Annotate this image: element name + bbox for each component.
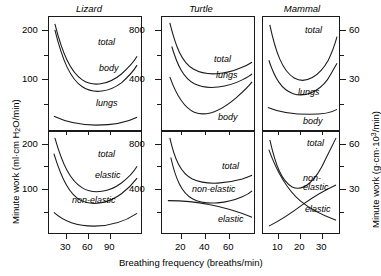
ytick-left-top-200: 200	[22, 24, 38, 35]
xtick-mark-lizard-top-3	[110, 131, 111, 135]
xtick-label-lizard-30: 30	[60, 241, 71, 252]
xtick-mark-turtle-bottom-2	[205, 234, 206, 239]
ytick-mark-right-bottom-minor1	[340, 166, 344, 167]
xtick-mark-lizard-top-1	[66, 131, 67, 135]
panel-lizard-bottom	[48, 131, 142, 234]
xtick-label-mammal-20: 20	[294, 241, 305, 252]
xtick-mark-mammal-bottom-3	[322, 234, 323, 239]
ytick-left-bottom-200: 200	[22, 138, 38, 149]
ytick-mark-left-top-minor1	[44, 55, 48, 56]
ytick-left-top-100: 100	[22, 73, 38, 84]
ytick-right-top-60: 60	[349, 24, 360, 35]
curve-label-turtle-top-body: body	[218, 113, 238, 122]
xtick-label-turtle-60: 60	[223, 241, 234, 252]
ytick-mark-left-top-200	[42, 30, 48, 31]
xtick-mark-mammal-top-1	[278, 131, 279, 135]
ytick-mark-mid-top-800	[155, 30, 161, 31]
ytick-mid-top-400: 400	[129, 73, 145, 84]
xtick-label-mammal-10: 10	[272, 241, 283, 252]
ytick-mark-left-bottom-minor1	[44, 166, 48, 167]
xtick-mark-mammal-bottom-2	[300, 234, 301, 239]
xtick-label-mammal-30: 30	[316, 241, 327, 252]
y-axis-title-right-sup: 3	[370, 132, 377, 136]
curve-label-lizard-bottom-total: total	[98, 150, 115, 159]
panel-title-lizard: Lizard	[48, 3, 130, 14]
x-axis-title: Breathing frequency (breaths/min)	[119, 257, 263, 268]
xtick-label-lizard-90: 90	[104, 241, 115, 252]
y-axis-title-left-pre: Minute work (ml·cm H	[10, 132, 21, 224]
curve-label-lizard-bottom-elastic: elastic	[95, 171, 121, 180]
xtick-mark-turtle-bottom-3	[229, 234, 230, 239]
xtick-label-turtle-40: 40	[199, 241, 210, 252]
ytick-mark-mid-top-400	[155, 79, 161, 80]
curve-label-turtle-bottom-non-elastic: non-elastic	[192, 185, 236, 194]
curve-label-turtle-top-total: total	[214, 55, 231, 64]
curve-label-mammal-top-body: body	[303, 117, 323, 126]
panel-title-turtle: Turtle	[161, 3, 241, 14]
ytick-mark-right-top-30	[340, 79, 346, 80]
curve-label-lizard-bottom-non-elastic: non-elastic	[72, 196, 116, 205]
xtick-mark-turtle-bottom-1	[181, 234, 182, 239]
ytick-mark-mid-top-minor2	[157, 104, 161, 105]
ytick-right-bottom-60: 60	[349, 138, 360, 149]
ytick-mark-right-bottom-60	[340, 144, 346, 145]
ytick-mark-mid-bottom-minor2	[157, 212, 161, 213]
xtick-mark-lizard-bottom-2	[88, 234, 89, 239]
curve-label-mammal-bottom-total: total	[307, 139, 324, 148]
ytick-mark-right-top-60	[340, 30, 346, 31]
ytick-mark-right-bottom-minor2	[340, 212, 344, 213]
curve-label-lizard-top-lungs: lungs	[96, 99, 118, 108]
panel-turtle-top	[161, 16, 255, 131]
panel-lizard-top	[48, 16, 142, 131]
curve-label-mammal-bottom-non-elastic: non- elastic	[303, 174, 329, 192]
curve-label-mammal-top-total: total	[305, 26, 322, 35]
curve-label-mammal-top-lungs: lungs	[298, 88, 320, 97]
ytick-mid-top-800: 800	[129, 24, 145, 35]
panel-title-mammal: Mammal	[262, 3, 342, 14]
ytick-mark-mid-bottom-800	[155, 144, 161, 145]
ytick-mark-mid-top-minor1	[157, 55, 161, 56]
curve-label-lizard-top-body: body	[99, 64, 119, 73]
ytick-mark-mid-bottom-400	[155, 189, 161, 190]
curve-label-lizard-top-total: total	[98, 38, 115, 47]
ytick-mid-bottom-800: 800	[129, 138, 145, 149]
xtick-mark-mammal-top-3	[322, 131, 323, 135]
ytick-mark-right-bottom-30	[340, 189, 346, 190]
xtick-label-lizard-60: 60	[82, 241, 93, 252]
xtick-label-turtle-20: 20	[175, 241, 186, 252]
ytick-mark-right-top-minor2	[340, 104, 344, 105]
ytick-right-top-30: 30	[349, 73, 360, 84]
ytick-mark-right-top-minor1	[340, 55, 344, 56]
curve-label-turtle-top-lungs: lungs	[216, 71, 238, 80]
y-axis-title-left-post: O/min)	[10, 99, 21, 128]
ytick-mid-bottom-400: 400	[129, 183, 145, 194]
curve-label-turtle-bottom-total: total	[222, 162, 239, 171]
y-axis-title-left: Minute work (ml·cm H2O/min)	[10, 99, 21, 224]
ytick-mark-left-top-100	[42, 79, 48, 80]
ytick-right-bottom-30: 30	[349, 183, 360, 194]
y-axis-title-right-post: /min)	[370, 111, 381, 132]
xtick-mark-turtle-top-1	[181, 131, 182, 135]
y-axis-title-right-pre: Minute work (g·cm·10	[370, 136, 381, 228]
xtick-mark-lizard-bottom-1	[66, 234, 67, 239]
xtick-mark-mammal-bottom-1	[278, 234, 279, 239]
xtick-mark-lizard-top-2	[88, 131, 89, 135]
y-axis-title-right: Minute work (g·cm·103/min)	[370, 111, 381, 228]
curve-label-turtle-bottom-elastic: elastic	[218, 215, 244, 224]
ytick-mark-mid-bottom-minor1	[157, 166, 161, 167]
curve-label-mammal-bottom-non-elastic-line2: elastic	[303, 183, 329, 192]
ytick-left-bottom-100: 100	[22, 183, 38, 194]
xtick-mark-lizard-bottom-3	[110, 234, 111, 239]
curve-label-mammal-bottom-elastic: elastic	[305, 205, 331, 214]
panel-mammal-top	[262, 16, 340, 131]
ytick-mark-left-bottom-100	[42, 189, 48, 190]
xtick-mark-mammal-top-2	[300, 131, 301, 135]
ytick-mark-left-bottom-200	[42, 144, 48, 145]
y-axis-title-left-sub: 2	[14, 128, 21, 132]
xtick-mark-turtle-top-2	[205, 131, 206, 135]
ytick-mark-left-bottom-minor2	[44, 212, 48, 213]
xtick-mark-turtle-top-3	[229, 131, 230, 135]
ytick-mark-left-top-minor2	[44, 104, 48, 105]
